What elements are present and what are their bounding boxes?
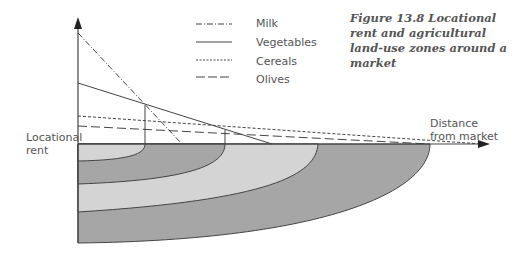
x-axis-label-line: from market <box>430 130 498 143</box>
line-olives <box>78 126 430 144</box>
legend-label: Vegetables <box>256 36 317 49</box>
legend-label: Olives <box>256 73 290 86</box>
y-axis-label: Locational rent <box>26 131 82 157</box>
x-axis-label-line: Distance <box>430 117 498 130</box>
legend-label: Cereals <box>256 55 297 68</box>
line-cereals <box>78 116 482 144</box>
y-axis-label-line: rent <box>26 144 82 157</box>
legend-label: Milk <box>256 17 278 30</box>
x-axis-label: Distance from market <box>430 117 498 143</box>
y-axis-arrow-icon <box>74 17 82 29</box>
line-milk <box>78 33 182 144</box>
line-vegetables <box>78 83 272 144</box>
y-axis-label-line: Locational <box>26 131 82 144</box>
figure-caption: Figure 13.8 Locational rent and agricult… <box>350 11 519 71</box>
